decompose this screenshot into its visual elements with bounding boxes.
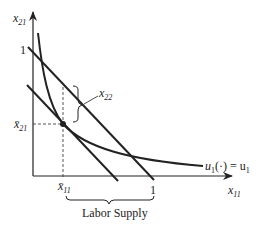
labor-supply-diagram: x21 1 1 x11 x̄21 x̄11 x22 u1(·) = u1 Lab… (0, 0, 263, 230)
labor-supply-label: Labor Supply (82, 206, 148, 220)
tangency-point (60, 121, 66, 127)
upper-budget-line (28, 47, 154, 180)
x-axis-label: x11 (227, 183, 241, 199)
x-axis-tick-1: 1 (150, 183, 156, 197)
x21-bar-label: x̄21 (13, 117, 27, 133)
y-axis-label: x21 (12, 11, 26, 27)
y-axis-tick-1: 1 (20, 43, 26, 57)
labor-supply-brace (66, 196, 154, 204)
utility-label: u1(·) = u1 (205, 159, 250, 175)
x22-brace (73, 86, 82, 122)
x22-leader (84, 96, 98, 104)
x11-bar-label: x̄11 (57, 179, 71, 195)
x22-label: x22 (98, 86, 112, 102)
